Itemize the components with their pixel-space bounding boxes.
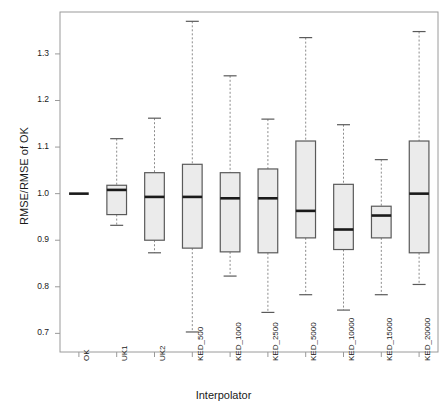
box-group bbox=[220, 76, 240, 276]
plot-canvas bbox=[0, 0, 447, 411]
box-group bbox=[145, 118, 165, 253]
y-tick-label: 1.3 bbox=[23, 48, 49, 58]
x-tick-label: KED_1000 bbox=[234, 322, 243, 361]
x-tick-label: KED_20000 bbox=[423, 318, 432, 361]
boxplot-figure: RMSE/RMSE of OK Interpolator 0.70.80.91.… bbox=[0, 0, 447, 411]
y-tick-label: 1.2 bbox=[23, 94, 49, 104]
box-group bbox=[296, 38, 316, 295]
y-tick-label: 1.0 bbox=[23, 188, 49, 198]
box-rect bbox=[409, 141, 429, 253]
x-tick-label: KED_5000 bbox=[309, 322, 318, 361]
box-rect bbox=[334, 184, 354, 249]
x-tick-label: KED_15000 bbox=[385, 318, 394, 361]
box-series bbox=[69, 21, 429, 332]
x-tick-label: KED_500 bbox=[196, 327, 205, 361]
box-rect bbox=[258, 169, 278, 253]
x-tick-label: UK1 bbox=[120, 345, 129, 361]
box-rect bbox=[145, 173, 165, 241]
panel-frame bbox=[60, 12, 438, 352]
panel-border bbox=[60, 12, 438, 352]
x-tick-label: KED_2500 bbox=[271, 322, 280, 361]
box-rect bbox=[182, 164, 202, 248]
box-group bbox=[182, 21, 202, 332]
box-group bbox=[334, 125, 354, 310]
box-rect bbox=[296, 141, 316, 238]
box-group bbox=[409, 32, 429, 285]
box-group bbox=[258, 119, 278, 312]
box-rect bbox=[220, 173, 240, 252]
x-tick-label: OK bbox=[82, 349, 91, 361]
y-tick-label: 0.8 bbox=[23, 281, 49, 291]
y-tick-label: 0.9 bbox=[23, 234, 49, 244]
x-tick-label: UK2 bbox=[158, 345, 167, 361]
box-rect bbox=[371, 206, 391, 238]
y-tick-label: 1.1 bbox=[23, 141, 49, 151]
y-tick-label: 0.7 bbox=[23, 327, 49, 337]
box-group bbox=[371, 160, 391, 295]
box-group bbox=[107, 139, 127, 226]
x-tick-label: KED_10000 bbox=[347, 318, 356, 361]
